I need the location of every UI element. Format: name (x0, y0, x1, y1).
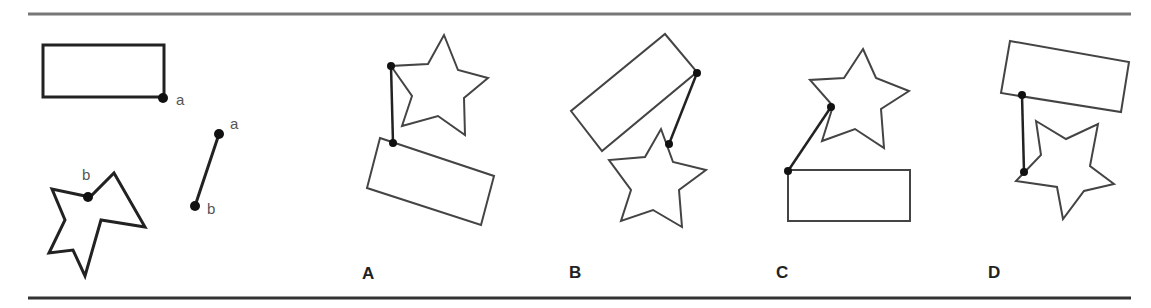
option-c-point-top (827, 103, 835, 111)
option-d-label: D (988, 263, 1000, 282)
rect-point-a-label: a (176, 91, 185, 108)
option-b-point-top (693, 69, 701, 77)
option-c-point-bottom (784, 167, 792, 175)
star-point-b (83, 192, 93, 202)
rect-point-a (158, 93, 168, 103)
option-b-label: B (569, 263, 581, 282)
option-a-rectangle (367, 138, 494, 225)
option-a-point-bottom (389, 139, 397, 147)
option-b[interactable]: B (569, 34, 706, 282)
option-b-point-bottom (665, 140, 673, 148)
option-a-star (391, 35, 488, 135)
option-a-point-top (387, 62, 395, 70)
connector-point-b-label: b (207, 200, 215, 217)
option-b-star (609, 129, 706, 227)
option-c-label: C (776, 263, 788, 282)
option-c-connector (788, 107, 831, 171)
option-c[interactable]: C (776, 49, 910, 282)
option-d-connector (1022, 95, 1024, 172)
example-star (49, 173, 145, 276)
option-d-point-bottom (1020, 168, 1028, 176)
example-group: a b a b (43, 45, 239, 276)
option-d-point-top (1018, 91, 1026, 99)
option-a-label: A (362, 264, 374, 283)
star-point-b-label: b (82, 166, 90, 183)
option-d-star (1016, 121, 1114, 219)
example-connector (195, 134, 219, 206)
option-d-rectangle (1001, 41, 1129, 112)
option-b-rectangle (571, 34, 697, 151)
option-a-connector (391, 66, 393, 143)
example-rectangle (43, 45, 164, 97)
puzzle-figure: a b a b A B C (0, 0, 1151, 308)
connector-point-a-label: a (230, 115, 239, 132)
option-d[interactable]: D (988, 41, 1129, 282)
option-a[interactable]: A (362, 35, 494, 283)
connector-point-b (190, 201, 200, 211)
option-c-star (810, 49, 909, 148)
connector-point-a (214, 129, 224, 139)
option-c-rectangle (788, 170, 910, 221)
